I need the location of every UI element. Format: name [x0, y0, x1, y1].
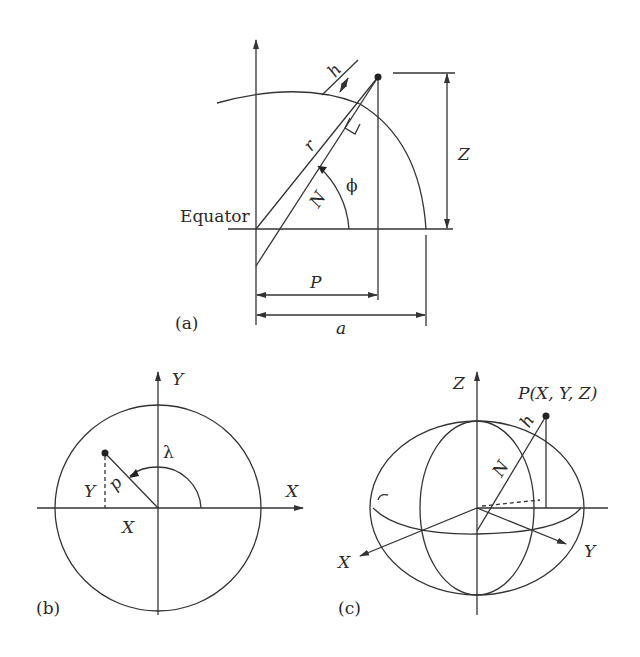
equator-back-stub	[378, 495, 388, 500]
panel-b-tag: (b)	[36, 598, 60, 618]
p-label: P	[309, 272, 322, 292]
point-marker-c	[543, 413, 550, 420]
x-axis-label-c: X	[336, 552, 351, 572]
panel-c-tag: (c)	[338, 598, 361, 618]
x-axis-c	[360, 508, 477, 556]
point-label-c: P(X, Y, Z)	[517, 383, 597, 403]
right-angle-mark	[345, 118, 360, 134]
lambda-arc	[130, 467, 201, 508]
lambda-label: λ	[163, 442, 174, 462]
h-dimension-arrow	[340, 78, 348, 92]
y-axis-label-c: Y	[584, 541, 597, 561]
geodetic-coordinates-figure: Equator h r N ϕ Z P a (a) Y X λ p Y X (b…	[0, 0, 640, 657]
a-label: a	[336, 318, 346, 338]
diagram-svg: Equator h r N ϕ Z P a (a) Y X λ p Y X (b…	[0, 0, 640, 657]
phi-label: ϕ	[346, 175, 358, 195]
x-component-label: X	[120, 517, 135, 537]
z-label: Z	[457, 144, 471, 164]
h-label: h	[323, 60, 345, 81]
p-label-b: p	[104, 472, 126, 494]
n-label: N	[305, 187, 331, 212]
y-axis-label: Y	[172, 369, 185, 389]
panel-a: Equator h r N ϕ Z P a (a)	[175, 40, 471, 338]
point-marker	[375, 74, 382, 81]
y-component-label: Y	[84, 481, 97, 501]
z-axis-label-c: Z	[452, 373, 466, 393]
n-line	[256, 77, 378, 266]
x-axis-label: X	[284, 481, 299, 501]
equator-label: Equator	[180, 206, 250, 226]
panel-c: Z P(X, Y, Z) h N X Y (c)	[336, 372, 608, 618]
panel-a-tag: (a)	[175, 313, 198, 333]
panel-b: Y X λ p Y X (b)	[36, 369, 303, 618]
n-line-c	[477, 416, 546, 531]
point-marker-b	[102, 450, 109, 457]
r-label: r	[299, 135, 320, 155]
y-axis-c	[477, 508, 566, 544]
dashed-projection-c	[482, 500, 540, 506]
